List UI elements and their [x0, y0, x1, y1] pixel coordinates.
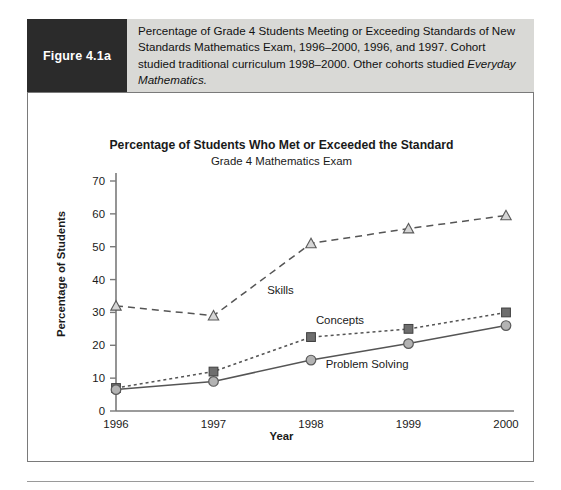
y-axis-tick-label: 30 — [92, 306, 105, 318]
data-point-marker-circle — [111, 385, 121, 395]
data-point-marker-triangle — [403, 223, 413, 232]
x-axis-tick-label: 1996 — [103, 418, 128, 430]
data-point-marker-circle — [404, 339, 414, 349]
line-chart-plot: 01020304050607019961997199819992000Skill… — [28, 93, 535, 463]
x-axis-tick-label: 2000 — [493, 418, 518, 430]
data-point-marker-circle — [501, 321, 511, 331]
y-axis-tick-label: 50 — [92, 241, 105, 253]
data-point-marker-triangle — [501, 210, 511, 219]
caption-line-3: studied traditional curriculum 1998–2000… — [138, 57, 464, 70]
x-axis-tick-label: 1999 — [396, 418, 421, 430]
y-axis-tick-label: 0 — [99, 405, 105, 417]
series-label-problem-solving: Problem Solving — [326, 358, 409, 370]
series-line — [116, 216, 506, 316]
y-axis-tick-label: 40 — [92, 274, 105, 286]
series-problem-solving: Problem Solving — [111, 321, 511, 395]
figure-number-tag: Figure 4.1a — [27, 19, 127, 92]
chart-frame: Percentage of Students Who Met or Exceed… — [27, 92, 534, 462]
data-point-marker-square — [307, 333, 316, 342]
y-axis-tick-label: 60 — [92, 208, 105, 220]
y-axis-tick-label: 20 — [92, 339, 105, 351]
series-label-skills: Skills — [267, 284, 294, 296]
data-point-marker-triangle — [111, 301, 121, 310]
series-line — [116, 312, 506, 388]
data-point-marker-triangle — [306, 238, 316, 247]
x-axis-tick-label: 1997 — [201, 418, 226, 430]
y-axis-tick-label: 10 — [92, 372, 105, 384]
data-point-marker-triangle — [208, 311, 218, 320]
figure-caption-band: Figure 4.1a Percentage of Grade 4 Studen… — [27, 19, 534, 92]
x-axis-tick-label: 1998 — [298, 418, 323, 430]
data-point-marker-square — [209, 367, 218, 376]
series-skills: Skills — [111, 210, 511, 320]
figure-bottom-rule — [27, 481, 534, 482]
series-concepts: Concepts — [112, 308, 511, 392]
data-point-marker-circle — [306, 355, 316, 365]
data-point-marker-square — [502, 308, 511, 317]
caption-line-1: Percentage of Grade 4 Students Meeting o… — [138, 24, 489, 37]
series-label-concepts: Concepts — [316, 314, 364, 326]
data-point-marker-circle — [209, 377, 219, 387]
data-point-marker-square — [404, 324, 413, 333]
figure-caption-text: Percentage of Grade 4 Students Meeting o… — [127, 19, 534, 92]
y-axis-tick-label: 70 — [92, 175, 105, 187]
